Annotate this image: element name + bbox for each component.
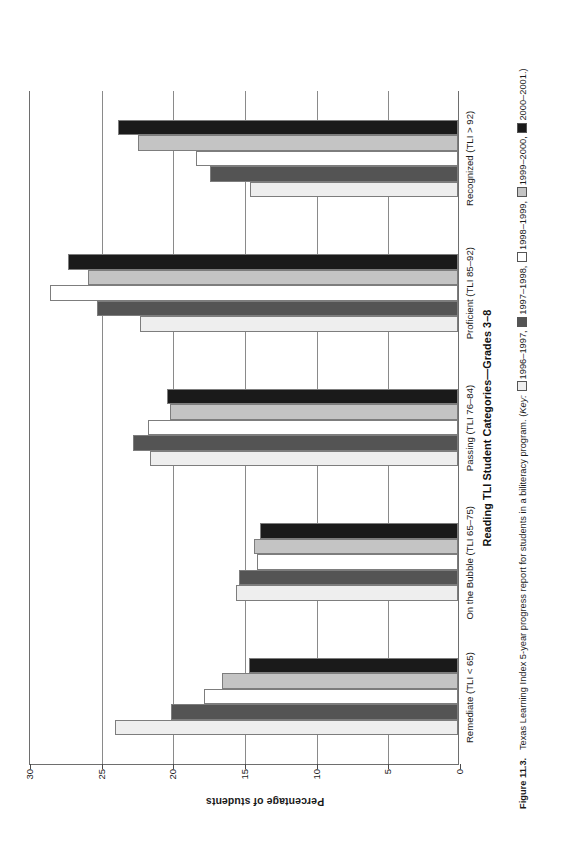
bar[interactable]	[50, 285, 459, 301]
bar[interactable]	[250, 182, 458, 198]
bar[interactable]	[138, 135, 458, 151]
bar[interactable]	[204, 689, 458, 705]
bar[interactable]	[140, 316, 458, 332]
legend-swatch	[517, 187, 527, 197]
legend: 1996–1997, 1997–1998, 1998–1999, 1999–20…	[518, 74, 528, 392]
y-axis-title-text: Percentage of students	[206, 796, 324, 808]
bar[interactable]	[239, 570, 458, 586]
y-tick-mark	[317, 764, 318, 769]
bar[interactable]	[97, 301, 458, 317]
bar-group	[30, 360, 458, 495]
bar-group	[30, 226, 458, 361]
x-category-label: Recognized (TLI > 92)	[460, 91, 482, 226]
x-axis-title: Reading TLI Student Categories—Grades 3–…	[481, 91, 493, 765]
legend-key-word: Key:	[518, 395, 528, 414]
x-category-label: Passing (TLI 76–84)	[460, 361, 482, 496]
bar[interactable]	[254, 539, 458, 555]
bar-group	[30, 495, 458, 630]
legend-swatch	[517, 123, 527, 133]
y-tick-label: 30	[24, 769, 35, 780]
bar[interactable]	[236, 585, 458, 601]
legend-label: 1998–1999,	[518, 201, 528, 250]
legend-label: 1996–1997,	[518, 330, 528, 379]
legend-label: 2000–2001	[518, 74, 528, 121]
y-tick-label: 20	[167, 769, 178, 780]
legend-label: 1999–2000,	[518, 136, 528, 185]
plot-region	[29, 91, 459, 765]
y-tick-mark	[388, 764, 389, 769]
y-tick-label: 10	[310, 769, 321, 780]
bar[interactable]	[249, 658, 458, 674]
legend-swatch	[517, 317, 527, 327]
y-tick-label: 5	[382, 769, 393, 774]
bar-group	[30, 91, 458, 226]
bar[interactable]	[150, 451, 458, 467]
x-category-label: Remediate (TLI < 65)	[460, 630, 482, 765]
bar[interactable]	[133, 435, 458, 451]
bar[interactable]	[260, 523, 458, 539]
y-tick-mark	[30, 764, 31, 769]
legend-swatch	[517, 381, 527, 391]
bar[interactable]	[210, 166, 458, 182]
x-category-label: On the Bubble (TLI 65–75)	[460, 495, 482, 630]
y-tick-label: 15	[239, 769, 250, 780]
rotated-figure-stage: Percentage of students 051015202530 Reme…	[0, 0, 581, 843]
y-axis-title: Percentage of students	[29, 793, 501, 811]
bar[interactable]	[118, 120, 458, 136]
y-tick-mark	[102, 764, 103, 769]
y-tick-mark	[173, 764, 174, 769]
bar[interactable]	[115, 720, 458, 736]
bar-group	[30, 629, 458, 764]
legend-open-paren: (	[518, 414, 528, 417]
y-tick-label: 0	[454, 769, 465, 774]
bar[interactable]	[68, 254, 458, 270]
bar[interactable]	[148, 420, 458, 436]
legend-swatch	[517, 252, 527, 262]
legend-label: 1997–1998,	[518, 266, 528, 315]
x-axis-category-labels: Remediate (TLI < 65)On the Bubble (TLI 6…	[460, 91, 482, 765]
y-tick-mark	[245, 764, 246, 769]
y-axis-tick-labels: 051015202530	[29, 767, 459, 793]
figure-block: Percentage of students 051015202530 Reme…	[0, 0, 581, 843]
bar[interactable]	[170, 404, 458, 420]
bar-groups	[30, 91, 458, 764]
figure-number: Figure 11.3.	[518, 758, 528, 809]
bar[interactable]	[257, 554, 458, 570]
legend-close: .)	[518, 68, 528, 74]
chart-area: Percentage of students 051015202530 Reme…	[29, 91, 501, 809]
bar[interactable]	[196, 151, 458, 167]
bar[interactable]	[88, 270, 458, 286]
bar[interactable]	[167, 389, 458, 405]
figure-caption-text: Texas Learning Index 5-year progress rep…	[518, 419, 528, 750]
x-category-label: Proficient (TLI 85–92)	[460, 226, 482, 361]
bar[interactable]	[171, 704, 458, 720]
figure-caption: Figure 11.3. Texas Learning Index 5-year…	[517, 49, 530, 809]
bar[interactable]	[222, 673, 459, 689]
y-tick-label: 25	[95, 769, 106, 780]
